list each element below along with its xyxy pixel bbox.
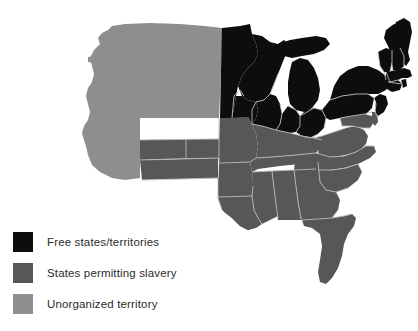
map-legend: Free states/territories States permittin… <box>13 232 213 325</box>
region-michigan-lower <box>288 58 320 112</box>
legend-label-unorganized-territory: Unorganized territory <box>47 294 158 314</box>
region-florida <box>302 214 356 284</box>
region-michigan-upper <box>278 36 330 58</box>
map-figure: Free states/territories States permittin… <box>0 0 418 331</box>
legend-swatch-free-states <box>13 232 33 252</box>
region-ohio <box>296 108 326 138</box>
legend-swatch-unorganized-territory <box>13 294 33 314</box>
region-indian-territory-north <box>140 139 219 160</box>
legend-item-free-states: Free states/territories <box>13 232 213 252</box>
legend-item-slave-states: States permitting slavery <box>13 263 213 283</box>
legend-item-unorganized-territory: Unorganized territory <box>13 294 213 314</box>
legend-label-slave-states: States permitting slavery <box>47 263 177 283</box>
region-indian-territory <box>140 158 218 180</box>
region-vermont <box>378 48 392 72</box>
legend-swatch-slave-states <box>13 263 33 283</box>
legend-label-free-states: Free states/territories <box>47 232 159 252</box>
